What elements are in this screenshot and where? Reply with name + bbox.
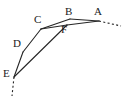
vertex-label-d: D (13, 38, 21, 49)
edge-A-B (70, 19, 99, 21)
dash-below-E (12, 77, 14, 96)
edge-E-F (14, 25, 67, 77)
vertex-label-b: B (65, 6, 72, 17)
edge-C-D (23, 29, 41, 52)
edge-group (14, 19, 99, 77)
edge-A-F (67, 21, 99, 25)
dash-right-of-A (99, 21, 121, 26)
vertex-label-c: C (34, 14, 41, 25)
geometry-diagram (0, 0, 125, 99)
vertex-label-e: E (3, 68, 10, 79)
vertex-label-f: F (61, 24, 67, 35)
vertex-label-a: A (94, 6, 102, 17)
figure-root: ABCDEF (0, 0, 125, 99)
